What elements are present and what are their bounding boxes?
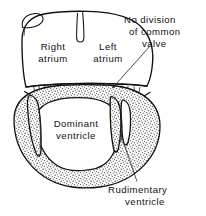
right-atrium-line2: atrium xyxy=(38,53,67,64)
label-right-atrium: Right atrium xyxy=(38,41,67,64)
right-atrium-line1: Right xyxy=(41,41,66,52)
dominant-line1: Dominant xyxy=(54,118,99,129)
rudimentary-line2: ventricle xyxy=(125,196,165,207)
left-atrium-line1: Left xyxy=(99,41,117,52)
rudimentary-line1: Rudimentary xyxy=(108,184,167,195)
no-division-line2: of common xyxy=(129,26,181,37)
no-division-line3: valve xyxy=(142,38,167,49)
left-atrium-line2: atrium xyxy=(93,53,122,64)
no-division-line1: No division xyxy=(124,14,176,25)
heart-diagram-svg: Right atrium Left atrium No division of … xyxy=(0,0,206,216)
label-dominant-ventricle: Dominant ventricle xyxy=(54,118,99,141)
dominant-line2: ventricle xyxy=(56,130,96,141)
anatomical-figure: Right atrium Left atrium No division of … xyxy=(0,0,206,216)
